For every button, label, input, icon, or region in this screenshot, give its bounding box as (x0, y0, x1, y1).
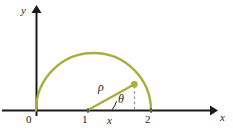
y-axis-label: y (21, 5, 26, 16)
figure-canvas: y x 0 1 2 x ρ θ (0, 0, 233, 136)
origin-label: 0 (26, 114, 32, 125)
angle-arc (112, 101, 117, 110)
x-axis-label: x (220, 112, 225, 123)
figure-svg (0, 0, 233, 136)
base-length-label: x (107, 115, 112, 126)
x-tick-label-2: 2 (145, 114, 151, 125)
x-tick-label-1: 1 (82, 114, 88, 125)
y-axis-arrowhead (32, 5, 42, 13)
radius-segment (88, 85, 134, 111)
radius-label: ρ (98, 81, 104, 93)
angle-label: θ (118, 93, 124, 105)
moving-point-marker (131, 81, 138, 88)
x-axis-arrowhead (210, 106, 218, 116)
